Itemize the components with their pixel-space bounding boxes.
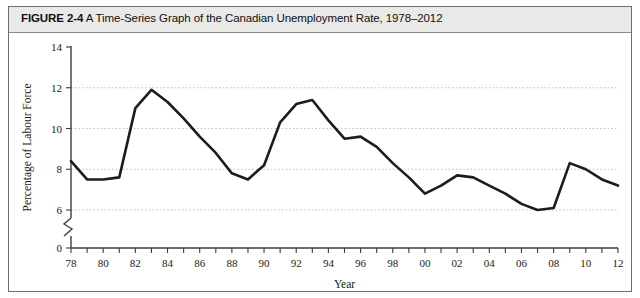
gridlines — [71, 88, 618, 210]
svg-text:98: 98 — [387, 257, 399, 269]
figure-caption: FIGURE 2-4 A Time-Series Graph of the Ca… — [21, 12, 442, 24]
svg-text:02: 02 — [452, 257, 463, 269]
svg-text:08: 08 — [548, 257, 560, 269]
svg-text:06: 06 — [516, 257, 528, 269]
svg-text:14: 14 — [51, 41, 63, 53]
svg-text:12: 12 — [51, 82, 62, 94]
svg-text:10: 10 — [580, 257, 592, 269]
x-axis-title: Year — [334, 278, 355, 290]
svg-text:92: 92 — [291, 257, 302, 269]
y-axis-tick-labels: 068101214 — [51, 41, 63, 254]
svg-text:82: 82 — [130, 257, 141, 269]
svg-text:12: 12 — [613, 257, 624, 269]
svg-text:8: 8 — [57, 163, 63, 175]
figure-frame: FIGURE 2-4 A Time-Series Graph of the Ca… — [8, 6, 632, 292]
svg-text:88: 88 — [226, 257, 238, 269]
svg-text:86: 86 — [194, 257, 206, 269]
svg-text:94: 94 — [323, 257, 335, 269]
svg-text:6: 6 — [57, 204, 63, 216]
y-axis-break-symbol — [64, 218, 72, 236]
data-series-line — [71, 90, 618, 210]
y-axis-title: Percentage of Labour Force — [21, 83, 34, 211]
svg-text:04: 04 — [484, 257, 496, 269]
unemployment-line-chart: 068101214 788082848688909294969800020406… — [9, 33, 631, 292]
svg-text:84: 84 — [162, 257, 174, 269]
x-axis-ticks — [71, 248, 618, 253]
svg-text:78: 78 — [66, 257, 78, 269]
svg-text:0: 0 — [57, 242, 63, 254]
svg-text:80: 80 — [98, 257, 110, 269]
svg-text:00: 00 — [419, 257, 431, 269]
svg-text:90: 90 — [259, 257, 271, 269]
x-axis-tick-labels: 788082848688909294969800020406081012 — [66, 257, 624, 269]
svg-text:96: 96 — [355, 257, 367, 269]
figure-number: FIGURE 2-4 — [21, 12, 83, 24]
svg-text:10: 10 — [51, 123, 63, 135]
chart-plot-area: 068101214 788082848688909294969800020406… — [9, 33, 631, 292]
figure-caption-text: A Time-Series Graph of the Canadian Unem… — [86, 12, 443, 24]
